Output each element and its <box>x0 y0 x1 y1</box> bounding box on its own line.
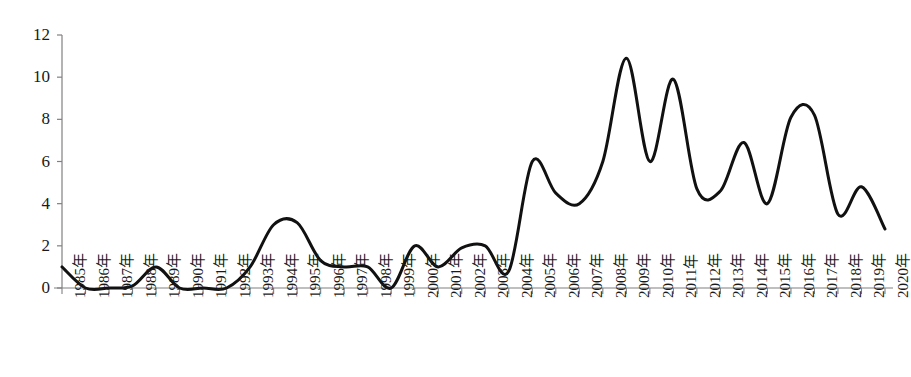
x-axis-tick-label: 1990年 <box>186 253 207 298</box>
y-axis-tick-label: 6 <box>20 153 50 170</box>
y-axis-tick-label: 0 <box>20 279 50 296</box>
x-axis-tick-label: 1996年 <box>327 253 348 298</box>
x-axis-tick-label: 2014年 <box>750 253 771 298</box>
x-axis-tick-label: 2020年 <box>891 253 911 298</box>
x-axis-tick-label: 1998年 <box>374 253 395 298</box>
x-axis-tick-label: 2001年 <box>444 253 465 298</box>
x-axis-tick-label: 2017年 <box>820 253 841 298</box>
x-axis-tick-label: 1989年 <box>162 253 183 298</box>
x-axis-tick-label: 1992年 <box>233 253 254 298</box>
x-axis-tick-label: 1986年 <box>92 253 113 298</box>
y-axis-tick-label: 8 <box>20 110 50 127</box>
x-axis-tick-label: 1987年 <box>115 253 136 298</box>
x-axis-tick-label: 2008年 <box>609 253 630 298</box>
y-axis-tick-label: 2 <box>20 237 50 254</box>
x-axis-tick-label: 2010年 <box>656 253 677 298</box>
x-axis-tick-label: 2004年 <box>515 253 536 298</box>
x-axis-tick-label: 2005年 <box>538 253 559 298</box>
x-axis-tick-label: 1991年 <box>209 253 230 298</box>
x-axis-tick-label: 1999年 <box>397 253 418 298</box>
chart-plot-area <box>0 0 911 377</box>
x-axis-tick-label: 1995年 <box>303 253 324 298</box>
x-axis-tick-label: 2000年 <box>421 253 442 298</box>
x-axis-tick-label: 2015年 <box>773 253 794 298</box>
x-axis-tick-label: 2011年 <box>679 254 700 298</box>
x-axis-tick-label: 1988年 <box>139 253 160 298</box>
x-axis-tick-label: 1985年 <box>68 253 89 298</box>
x-axis-tick-label: 2012年 <box>703 253 724 298</box>
x-axis-tick-label: 2007年 <box>585 253 606 298</box>
x-axis-tick-label: 2006年 <box>562 253 583 298</box>
x-axis-tick-label: 2019年 <box>867 253 888 298</box>
y-axis-tick-label: 10 <box>20 68 50 85</box>
x-axis-tick-label: 2018年 <box>844 253 865 298</box>
x-axis-tick-label: 1993年 <box>256 253 277 298</box>
x-axis-tick-label: 1997年 <box>350 253 371 298</box>
y-axis-tick-label: 12 <box>20 26 50 43</box>
x-axis-tick-label: 2002年 <box>468 253 489 298</box>
line-chart: 121086420 1985年1986年1987年1988年1989年1990年… <box>0 0 911 377</box>
x-axis-tick-label: 2003年 <box>491 253 512 298</box>
x-axis-tick-label: 2016年 <box>797 253 818 298</box>
x-axis-tick-label: 1994年 <box>280 253 301 298</box>
x-axis-tick-label: 2009年 <box>632 253 653 298</box>
x-axis-tick-label: 2013年 <box>726 253 747 298</box>
y-axis-tick-label: 4 <box>20 195 50 212</box>
